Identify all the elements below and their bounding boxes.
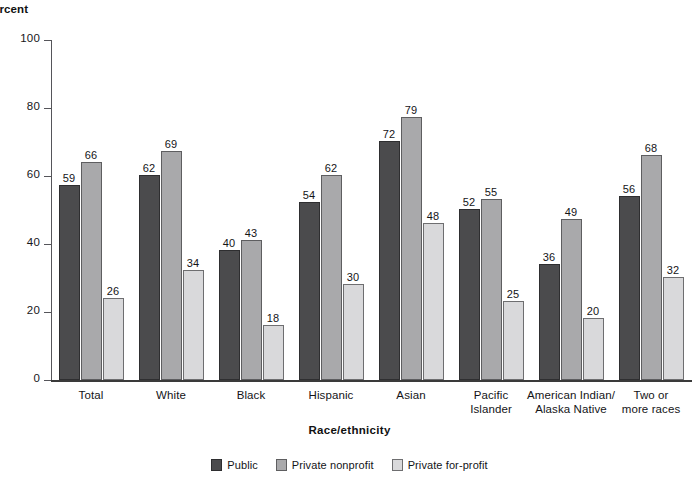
bar-value-label: 59 (63, 172, 76, 184)
bar-value-label: 79 (405, 104, 418, 116)
chart-legend: PublicPrivate nonprofitPrivate for-profi… (0, 459, 699, 471)
legend-label: Private for-profit (408, 459, 488, 471)
bar-value-label: 48 (427, 210, 440, 222)
legend-item[interactable]: Public (211, 459, 258, 471)
bar-value-label: 20 (587, 305, 600, 317)
legend-label: Public (227, 459, 258, 471)
y-tick-label: 40 (27, 236, 40, 248)
y-tick: 60 (44, 176, 51, 177)
y-tick: 20 (44, 312, 51, 313)
bar: 68 (641, 155, 662, 380)
bar-value-label: 30 (347, 271, 360, 283)
bar: 30 (343, 284, 364, 380)
bar: 34 (183, 270, 204, 380)
bar: 66 (81, 162, 102, 380)
x-category-label: Black (205, 388, 297, 402)
x-category-label: American Indian/Alaska Native (525, 388, 617, 416)
y-tick: 100 (44, 40, 51, 41)
bar-value-label: 26 (107, 285, 120, 297)
x-category-label: Total (45, 388, 137, 402)
bar: 43 (241, 240, 262, 380)
bar-group: 364920American Indian/Alaska Native (531, 40, 611, 380)
bar: 62 (139, 175, 160, 380)
y-tick-label: 0 (33, 372, 40, 384)
y-axis-title: ercent (0, 3, 28, 15)
legend-swatch (392, 459, 403, 471)
legend-item[interactable]: Private for-profit (392, 459, 488, 471)
bar: 49 (561, 219, 582, 380)
x-axis-title: Race/ethnicity (0, 424, 699, 436)
bar-group: 566832Two ormore races (611, 40, 691, 380)
bar-value-label: 18 (267, 312, 280, 324)
y-tick-label: 20 (27, 304, 40, 316)
bar: 18 (263, 325, 284, 380)
bar-value-label: 40 (223, 237, 236, 249)
bar: 54 (299, 202, 320, 380)
bar: 59 (59, 185, 80, 380)
bar: 72 (379, 141, 400, 380)
bar-value-label: 66 (85, 149, 98, 161)
bar: 52 (459, 209, 480, 380)
legend-label: Private nonprofit (292, 459, 374, 471)
y-tick-label: 100 (20, 32, 40, 44)
bar-value-label: 62 (143, 162, 156, 174)
y-tick-label: 80 (27, 100, 40, 112)
x-category-label: PacificIslander (445, 388, 537, 416)
bar-group: 546230Hispanic (291, 40, 371, 380)
bar: 69 (161, 151, 182, 380)
y-tick: 0 (44, 380, 51, 381)
bar: 20 (583, 318, 604, 380)
bar-group: 626934White (131, 40, 211, 380)
bar: 62 (321, 175, 342, 380)
bar-value-label: 36 (543, 251, 556, 263)
x-category-label: White (125, 388, 217, 402)
y-tick: 80 (44, 108, 51, 109)
x-category-label: Hispanic (285, 388, 377, 402)
bar-value-label: 72 (383, 128, 396, 140)
bar-group: 404318Black (211, 40, 291, 380)
bar-value-label: 52 (463, 196, 476, 208)
bar-chart: ercent 020406080100 596626Total626934Whi… (0, 0, 699, 483)
bar-value-label: 62 (325, 162, 338, 174)
bar-value-label: 32 (667, 264, 680, 276)
bar: 48 (423, 223, 444, 380)
legend-swatch (276, 459, 287, 471)
bar-value-label: 68 (645, 142, 658, 154)
bar-group: 525525PacificIslander (451, 40, 531, 380)
bar-value-label: 56 (623, 183, 636, 195)
x-category-label: Two ormore races (605, 388, 697, 416)
bar: 40 (219, 250, 240, 380)
y-tick: 40 (44, 244, 51, 245)
legend-swatch (211, 459, 222, 471)
bar: 79 (401, 117, 422, 380)
bar-value-label: 55 (485, 186, 498, 198)
bar-value-label: 49 (565, 206, 578, 218)
bar-value-label: 69 (165, 138, 178, 150)
x-category-label: Asian (365, 388, 457, 402)
bar: 36 (539, 264, 560, 380)
bar-value-label: 34 (187, 257, 200, 269)
bar: 56 (619, 196, 640, 380)
bar-group: 727948Asian (371, 40, 451, 380)
bar-value-label: 54 (303, 189, 316, 201)
x-axis-line (51, 380, 692, 382)
plot-area: 020406080100 596626Total626934White40431… (51, 40, 691, 380)
bar-value-label: 43 (245, 227, 258, 239)
y-tick-label: 60 (27, 168, 40, 180)
bar: 26 (103, 298, 124, 380)
bar: 55 (481, 199, 502, 380)
legend-item[interactable]: Private nonprofit (276, 459, 374, 471)
bar-group: 596626Total (51, 40, 131, 380)
bar: 25 (503, 301, 524, 380)
bar-value-label: 25 (507, 288, 520, 300)
bar: 32 (663, 277, 684, 380)
